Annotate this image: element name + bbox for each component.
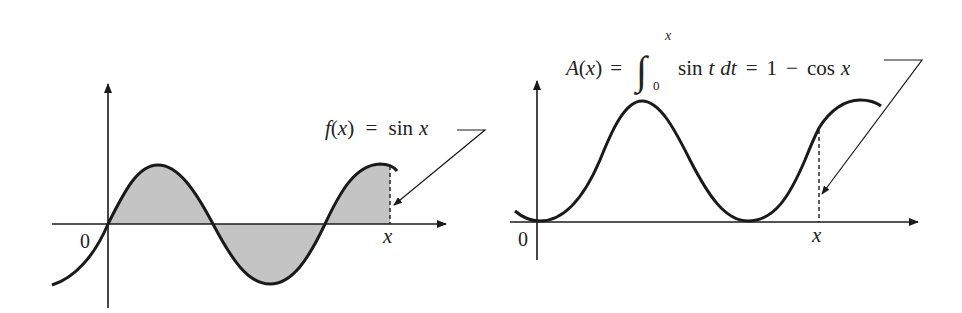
- equals-2: =: [746, 56, 758, 80]
- sin-arg: x: [418, 116, 429, 140]
- sin-fn: sin: [678, 56, 703, 80]
- cos-arg: x: [840, 56, 851, 80]
- one: 1: [767, 56, 778, 80]
- integrand-var: t: [709, 56, 716, 80]
- cos-fn: cos: [807, 56, 835, 80]
- paren-close: ): [347, 116, 354, 140]
- integral-upper-limit: x: [664, 28, 672, 43]
- label-leader-line: [822, 60, 922, 194]
- paren-close: ): [595, 56, 602, 80]
- formula-rhs: sintdt=1−cosx: [678, 56, 851, 80]
- fn-name-A: A: [564, 56, 579, 80]
- sin-fn: sin: [389, 116, 414, 140]
- equals: =: [360, 116, 382, 140]
- x-tick-label: x: [382, 224, 393, 248]
- function-label: f(x) = sinx: [325, 116, 429, 140]
- x-tick-label: x: [811, 223, 822, 247]
- area-function-label: A(x)= ∫ 0 x sintdt=1−cosx: [564, 28, 851, 95]
- label-leader-line: [394, 130, 485, 205]
- equals-1: =: [610, 56, 622, 80]
- origin-label: 0: [518, 228, 528, 250]
- right-graph: 0 x A(x)= ∫ 0 x sintdt=1−cosx: [510, 28, 922, 260]
- area-function-curve: [515, 100, 881, 221]
- formula-lhs: A(x)=: [564, 56, 622, 80]
- differential: dt: [720, 56, 738, 80]
- figure: 0 x f(x) = sinx 0 x A(x)= ∫ 0 x sint: [0, 0, 962, 313]
- paren-open: (: [579, 56, 586, 80]
- integral-lower-limit: 0: [653, 78, 660, 93]
- origin-label: 0: [80, 230, 90, 252]
- left-graph: 0 x f(x) = sinx: [52, 84, 485, 308]
- paren-open: (: [331, 116, 338, 140]
- minus: −: [786, 56, 798, 80]
- integral-sign: ∫: [633, 48, 650, 95]
